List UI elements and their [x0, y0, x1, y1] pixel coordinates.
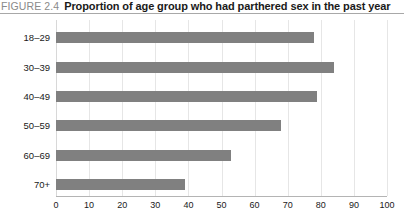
x-tick-label: 10 — [84, 199, 94, 211]
bar-row — [56, 32, 387, 43]
gridline — [354, 20, 355, 196]
category-label: 50–59 — [2, 120, 50, 131]
x-tick-label: 60 — [250, 199, 260, 211]
x-tick-label: 50 — [216, 199, 226, 211]
gridline — [321, 20, 322, 196]
x-tick-label: 0 — [53, 199, 58, 211]
bar — [56, 32, 314, 43]
x-tick-label: 20 — [117, 199, 127, 211]
gridline — [155, 20, 156, 196]
bar-row — [56, 62, 387, 73]
x-tick-label: 90 — [349, 199, 359, 211]
bar — [56, 62, 334, 73]
gridline — [89, 20, 90, 196]
category-label: 70+ — [2, 179, 50, 190]
x-tick-label: 100 — [379, 199, 394, 211]
x-tick-label: 70 — [283, 199, 293, 211]
plot-area — [56, 20, 387, 196]
bar-row — [56, 120, 387, 131]
x-axis-line — [56, 196, 387, 197]
gridline — [122, 20, 123, 196]
x-tick-label: 30 — [150, 199, 160, 211]
category-label: 60–69 — [2, 150, 50, 161]
category-label: 30–39 — [2, 62, 50, 73]
gridline — [188, 20, 189, 196]
bar-row — [56, 150, 387, 161]
bar — [56, 120, 281, 131]
x-tick-label: 40 — [183, 199, 193, 211]
gridline — [288, 20, 289, 196]
bar-row — [56, 91, 387, 102]
bar — [56, 179, 185, 190]
gridline — [56, 20, 57, 196]
figure-title: Proportion of age group who had parthere… — [59, 0, 390, 12]
bar — [56, 150, 231, 161]
x-tick-label: 80 — [316, 199, 326, 211]
bar — [56, 91, 317, 102]
category-label: 40–49 — [2, 91, 50, 102]
figure-header: FIGURE 2.4 Proportion of age group who h… — [0, 0, 404, 13]
figure-container: FIGURE 2.4 Proportion of age group who h… — [0, 0, 404, 216]
x-axis-tick-labels: 0102030405060708090100 — [0, 199, 404, 215]
gridline — [222, 20, 223, 196]
gridline — [255, 20, 256, 196]
bar-row — [56, 179, 387, 190]
figure-number: FIGURE 2.4 — [0, 0, 59, 12]
gridline — [387, 20, 388, 196]
category-axis-labels: 18–2930–3940–4950–5960–6970+ — [0, 20, 50, 196]
category-label: 18–29 — [2, 32, 50, 43]
header-divider — [0, 13, 404, 14]
